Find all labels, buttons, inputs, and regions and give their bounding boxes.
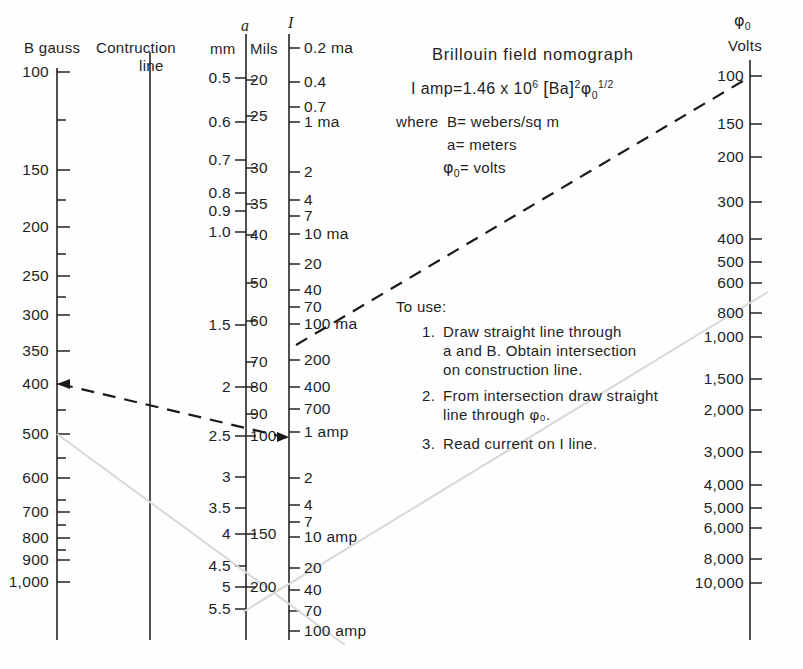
tick-label: 800 xyxy=(0,305,744,321)
tick-label: 150 xyxy=(0,116,744,132)
phi-subscript: 0 xyxy=(745,20,751,32)
nomograph-page: B gauss Contruction line a mm I Mils φ0 … xyxy=(0,0,803,669)
axis-header-symbol-i: I xyxy=(288,15,294,31)
tick-label: 200 xyxy=(0,149,744,165)
tick-label: 1,000 xyxy=(0,329,744,345)
tick-label: 400 xyxy=(0,231,744,247)
phi-glyph: φ xyxy=(734,11,745,30)
tick-label: 6,000 xyxy=(0,520,744,536)
tick-label: 0.2 ma xyxy=(304,40,353,56)
tick-label: 8,000 xyxy=(0,551,744,567)
tick-label: 70 xyxy=(304,603,322,619)
tick-label: 300 xyxy=(0,194,744,210)
axis-header-mils: Mils xyxy=(250,41,278,56)
tick-label: 3,000 xyxy=(0,444,744,460)
instruction-2-line-1: From intersection draw straight xyxy=(443,388,658,403)
axis-header-volts: Volts xyxy=(728,38,762,53)
tick-label: 2.5 xyxy=(0,428,231,444)
tick-label: 1,500 xyxy=(0,371,744,387)
instruction-1-line-2: a and B. Obtain intersection xyxy=(443,343,637,358)
tick-label: 10,000 xyxy=(0,575,744,591)
tick-label: 1 amp xyxy=(304,424,349,440)
tick-label: 5,000 xyxy=(0,500,744,516)
tick-label: 350 xyxy=(0,343,49,359)
axis-header-symbol-a: a xyxy=(241,18,249,34)
axis-header-mm: mm xyxy=(210,41,236,56)
tick-label: 200 xyxy=(304,352,331,368)
formula-phi-sub: 0 xyxy=(592,89,598,101)
tick-label: 600 xyxy=(0,275,744,291)
tick-label: 70 xyxy=(250,354,268,370)
axis-header-b-gauss: B gauss xyxy=(24,40,80,55)
tick-label: 2,000 xyxy=(0,402,744,418)
arrowhead-a-scale xyxy=(277,432,289,442)
tick-label: 500 xyxy=(0,254,744,270)
axis-header-construction-1: Contruction xyxy=(96,40,176,55)
tick-label: 7 xyxy=(304,208,313,224)
tick-label: 5.5 xyxy=(0,601,231,617)
instruction-2-number: 2. xyxy=(422,388,435,403)
tick-label: 100 amp xyxy=(304,623,366,639)
tick-label: 2 xyxy=(304,164,313,180)
axis-header-symbol-phi: φ0 xyxy=(734,12,751,32)
tick-label: 100 xyxy=(0,68,744,84)
tick-label: 4,000 xyxy=(0,477,744,493)
tick-label: 100 xyxy=(250,428,277,444)
nomograph-title: Brillouin field nomograph xyxy=(432,46,634,63)
